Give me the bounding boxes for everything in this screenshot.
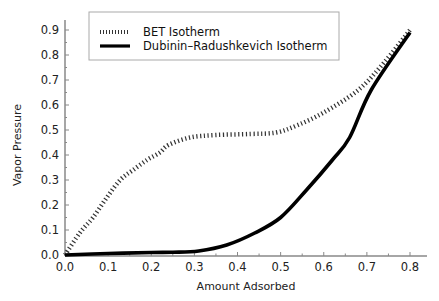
y-tick-label: 0.7 xyxy=(41,73,59,87)
x-tick-label: 0.4 xyxy=(228,260,246,274)
x-tick-label: 0.5 xyxy=(271,260,289,274)
plot-area xyxy=(65,30,410,255)
legend-label-bet: BET Isotherm xyxy=(143,25,220,39)
x-tick-label: 0.0 xyxy=(56,260,74,274)
legend: BET Isotherm Dubinin–Radushkevich Isothe… xyxy=(89,12,339,60)
y-axis-label: Vapor Pressure xyxy=(11,104,24,186)
x-tick-label: 0.3 xyxy=(185,260,203,274)
bet-isotherm-line xyxy=(65,30,410,255)
y-tick-label: 0.8 xyxy=(41,48,59,62)
x-tick-label: 0.8 xyxy=(401,260,419,274)
y-tick-label: 0.9 xyxy=(41,23,59,37)
legend-label-dr: Dubinin–Radushkevich Isotherm xyxy=(143,39,327,53)
y-tick-label: 0.4 xyxy=(41,148,59,162)
y-tick-label: 0.6 xyxy=(41,98,59,112)
dr-isotherm-line xyxy=(65,33,410,256)
x-tick-label: 0.6 xyxy=(315,260,333,274)
y-tick-label: 0.0 xyxy=(41,248,59,262)
isotherm-chart: 0.00.10.20.30.40.50.60.70.80.00.10.20.30… xyxy=(0,0,439,301)
x-tick-label: 0.7 xyxy=(358,260,376,274)
x-axis-label: Amount Adsorbed xyxy=(197,280,296,293)
ticks: 0.00.10.20.30.40.50.60.70.80.00.10.20.30… xyxy=(41,23,419,274)
y-tick-label: 0.1 xyxy=(41,223,59,237)
y-tick-label: 0.3 xyxy=(41,173,59,187)
y-tick-label: 0.5 xyxy=(41,123,59,137)
x-tick-label: 0.1 xyxy=(99,260,117,274)
x-tick-label: 0.2 xyxy=(142,260,160,274)
y-tick-label: 0.2 xyxy=(41,198,59,212)
